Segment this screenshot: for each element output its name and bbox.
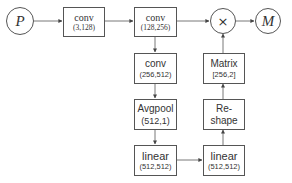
linear1-params: (512,512) — [139, 162, 171, 172]
diagram-canvas: P conv (3,128) conv (128,256) × M conv (… — [0, 0, 292, 183]
multiply-icon: × — [218, 14, 229, 29]
input-label: P — [15, 13, 24, 30]
conv2-box: conv (128,256) — [134, 7, 177, 37]
avgpool-title: Avgpool — [138, 103, 174, 115]
conv3-params: (256,512) — [139, 70, 171, 80]
reshape-box: Re- shape — [203, 99, 245, 130]
linear2-box: linear (512,512) — [203, 145, 245, 176]
matrix-params: [256,2] — [213, 70, 236, 80]
reshape-title: Re- — [216, 103, 232, 115]
conv2-params: (128,256) — [141, 23, 170, 33]
avgpool-params: (512,1) — [141, 115, 170, 127]
linear1-title: linear — [142, 150, 169, 162]
conv3-box: conv (256,512) — [134, 53, 177, 84]
output-node-m: M — [255, 8, 281, 34]
output-label: M — [262, 13, 275, 30]
multiply-node: × — [210, 8, 236, 34]
reshape-title2: shape — [210, 115, 237, 127]
conv1-box: conv (3,128) — [63, 7, 105, 37]
avgpool-box: Avgpool (512,1) — [134, 99, 177, 130]
linear2-title: linear — [211, 150, 238, 162]
matrix-box: Matrix [256,2] — [203, 53, 245, 84]
conv1-params: (3,128) — [73, 23, 95, 33]
conv2-title: conv — [146, 12, 165, 23]
linear1-box: linear (512,512) — [134, 145, 177, 176]
matrix-title: Matrix — [210, 58, 237, 70]
linear2-params: (512,512) — [208, 162, 240, 172]
input-node-p: P — [6, 7, 34, 35]
conv1-title: conv — [74, 12, 93, 23]
conv3-title: conv — [145, 58, 166, 70]
